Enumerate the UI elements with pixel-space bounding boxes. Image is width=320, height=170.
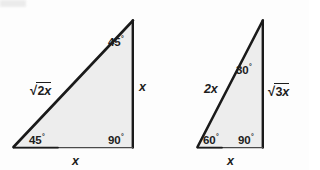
triangle-30-60-90-angle-bottom-left: 60°: [203, 133, 219, 147]
radicand: 2x: [36, 82, 51, 98]
radical-sign-icon: √: [268, 84, 275, 99]
triangle-45-45-90-vertical-label: x: [139, 81, 146, 94]
triangle-45-45-90-angle-bottom-left: 45°: [29, 133, 45, 147]
angle-bottom-right-value: 90: [238, 134, 250, 146]
degree-symbol-icon: °: [121, 133, 124, 140]
angle-bottom-left-value: 45: [29, 134, 41, 146]
radicand: 3x: [274, 83, 289, 99]
triangle-30-60-90-hypotenuse-label: 2x: [204, 83, 218, 96]
triangle-45-45-90-base-label: x: [72, 155, 79, 168]
angle-bottom-left-value: 60: [203, 134, 215, 146]
angle-top-left-value: 45: [108, 36, 120, 48]
radicand-variable: x: [44, 83, 51, 97]
radicand-variable: x: [282, 84, 289, 98]
hypotenuse-expression: 2x: [204, 82, 218, 96]
triangle-45-45-90-angle-top: 45°: [108, 35, 124, 49]
triangle-30-60-90-base-label: x: [227, 155, 234, 168]
degree-symbol-icon: °: [42, 133, 45, 140]
degree-symbol-icon: °: [249, 63, 252, 70]
angle-top-right-value: 30: [236, 64, 248, 76]
triangle-45-45-90-angle-bottom-right: 90°: [108, 133, 124, 147]
radical-expression: √3x: [268, 84, 289, 98]
triangle-45-45-90-hypotenuse-label: √2x: [30, 81, 51, 97]
degree-symbol-icon: °: [121, 35, 124, 42]
angle-bottom-right-value: 90: [108, 134, 120, 146]
degree-symbol-icon: °: [216, 133, 219, 140]
degree-symbol-icon: °: [251, 133, 254, 140]
triangle-30-60-90-angle-bottom-right: 90°: [238, 133, 254, 147]
triangle-30-60-90-vertical-label: √3x: [268, 82, 289, 98]
triangle-30-60-90-angle-top: 30°: [236, 63, 252, 77]
radical-sign-icon: √: [30, 83, 37, 98]
radical-expression: √2x: [30, 83, 51, 97]
